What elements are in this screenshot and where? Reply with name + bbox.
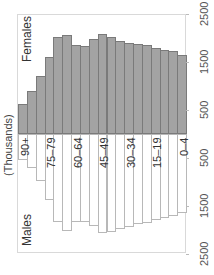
age-group-label: 30–34: [125, 137, 137, 168]
age-group-label: 0–4: [178, 137, 190, 155]
age-group-label: 90+: [19, 137, 31, 156]
value-tick-label: 2500: [198, 2, 210, 26]
value-tick-label: 500: [198, 149, 210, 167]
age-group-label: 60–64: [72, 137, 84, 168]
value-tick-label: 2500: [198, 242, 210, 266]
population-pyramid-chart: 90+75–7960–6445–4930–3415–190–4500500150…: [0, 0, 214, 275]
tick-mark: [186, 206, 189, 207]
age-group-label: 75–79: [45, 137, 57, 168]
tick-mark: [186, 254, 189, 255]
tick-mark: [186, 62, 189, 63]
tick-mark: [186, 110, 189, 111]
axis-title: (Thousands): [2, 114, 14, 176]
female-bar: [177, 55, 187, 134]
value-tick-label: 500: [198, 101, 210, 119]
tick-mark: [186, 14, 189, 15]
age-group-label: 45–49: [98, 137, 110, 168]
age-group-label: 15–19: [151, 137, 163, 168]
value-tick-label: 1500: [198, 50, 210, 74]
males-label: Males: [20, 214, 34, 246]
tick-mark: [186, 158, 189, 159]
females-label: Females: [20, 16, 34, 62]
value-tick-label: 1500: [198, 194, 210, 218]
